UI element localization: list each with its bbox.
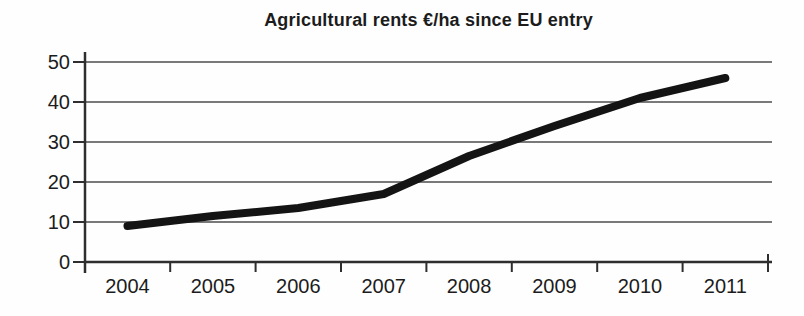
axes bbox=[84, 52, 772, 273]
chart-figure: Agricultural rents €/ha since EU entry 0… bbox=[0, 0, 804, 316]
x-tick-label: 2008 bbox=[447, 275, 492, 297]
x-tick-label: 2009 bbox=[532, 275, 577, 297]
y-tick-label: 50 bbox=[48, 51, 70, 73]
y-tick-label: 40 bbox=[48, 91, 70, 113]
x-tick-label: 2011 bbox=[704, 275, 747, 297]
x-tick-label: 2007 bbox=[361, 275, 406, 297]
x-tick-labels: 20042005200620072008200920102011 bbox=[105, 275, 747, 297]
y-tick-labels: 01020304050 bbox=[48, 51, 70, 273]
x-tick-label: 2006 bbox=[276, 275, 321, 297]
line-chart-plot: 0102030405020042005200620072008200920102… bbox=[0, 0, 804, 316]
x-tick-label: 2010 bbox=[618, 275, 663, 297]
x-tick-label: 2004 bbox=[105, 275, 150, 297]
x-tick-label: 2005 bbox=[191, 275, 236, 297]
gridlines bbox=[85, 62, 772, 222]
y-tick-label: 0 bbox=[59, 251, 70, 273]
data-series-line bbox=[128, 78, 726, 226]
y-tick-label: 30 bbox=[48, 131, 70, 153]
y-tick-label: 20 bbox=[48, 171, 70, 193]
y-tick-label: 10 bbox=[48, 211, 70, 233]
